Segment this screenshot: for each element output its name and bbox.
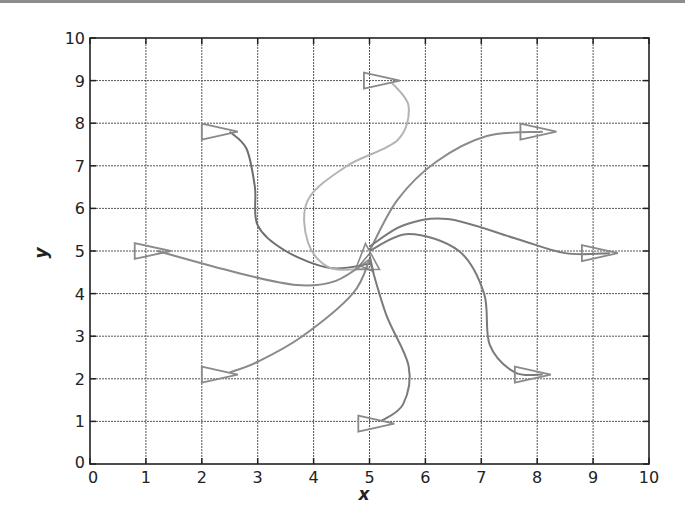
path-to-bottom (370, 260, 410, 422)
y-tick-label: 2 (75, 370, 85, 389)
x-tick-label: 3 (253, 468, 263, 487)
x-axis-label: x (358, 484, 371, 504)
path-to-right (370, 218, 610, 254)
triangle-marker-icon (202, 124, 238, 140)
y-tick-label: 6 (75, 199, 85, 218)
x-tick-label: 6 (420, 468, 430, 487)
y-tick-label: 8 (75, 114, 85, 133)
y-tick-label: 10 (65, 29, 85, 48)
path-to-upper-right (370, 132, 543, 251)
triangle-marker-icon (358, 416, 394, 432)
x-tick-label: 2 (197, 468, 207, 487)
x-tick-label: 8 (532, 468, 542, 487)
x-tick-label: 10 (639, 468, 659, 487)
trajectories (135, 73, 618, 432)
x-tick-label: 1 (141, 468, 151, 487)
path-to-upper-left (230, 132, 370, 269)
x-tick-label: 4 (309, 468, 319, 487)
y-tick-label: 9 (75, 72, 85, 91)
x-tick-label: 9 (588, 468, 598, 487)
y-tick-label: 1 (75, 412, 85, 431)
triangle-marker-icon (202, 367, 238, 383)
y-tick-label: 4 (75, 285, 85, 304)
y-tick-label: 7 (75, 157, 85, 176)
x-tick-label: 7 (476, 468, 486, 487)
path-to-top (304, 83, 409, 270)
y-axis-label: y (31, 247, 51, 259)
y-tick-label: 3 (75, 327, 85, 346)
chart: 012345678910012345678910 x y (0, 0, 685, 518)
path-to-lower-right (370, 234, 543, 375)
x-tick-label: 0 (88, 468, 98, 487)
y-tick-label: 5 (75, 242, 85, 261)
tick-labels: 012345678910012345678910 (65, 29, 660, 487)
y-tick-label: 0 (75, 453, 85, 472)
